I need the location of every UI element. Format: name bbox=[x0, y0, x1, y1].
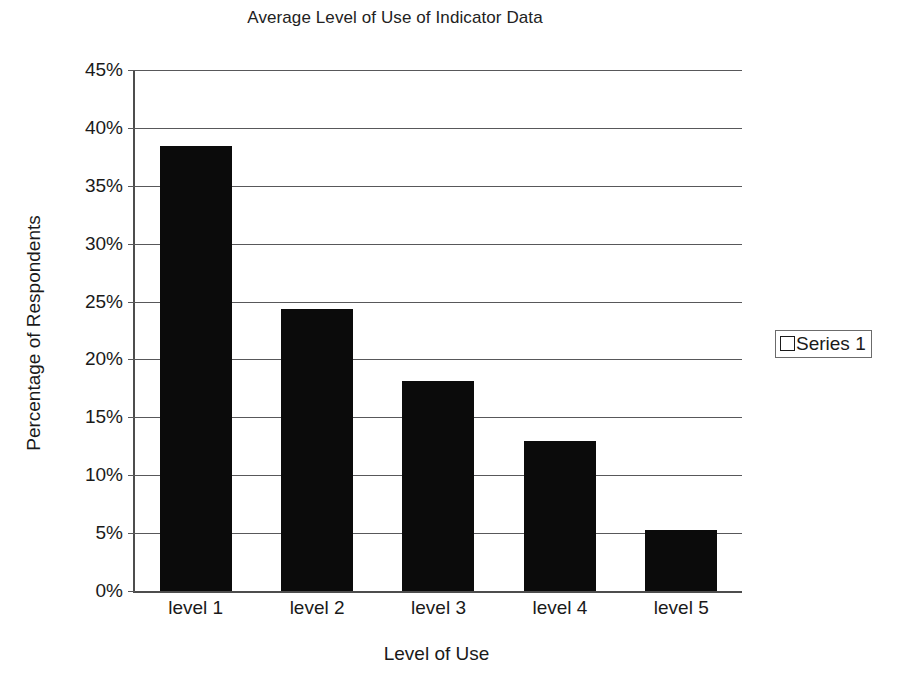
y-axis-tick bbox=[128, 70, 135, 71]
y-tick-label: 45% bbox=[85, 59, 123, 81]
bar-slot bbox=[256, 70, 377, 591]
y-tick-label: 5% bbox=[96, 522, 123, 544]
chart-title: Average Level of Use of Indicator Data bbox=[0, 8, 790, 28]
bar[interactable] bbox=[281, 309, 353, 591]
x-tick-label: level 4 bbox=[499, 597, 620, 619]
legend-swatch-icon bbox=[780, 336, 795, 351]
bar[interactable] bbox=[402, 381, 474, 591]
y-axis-tick bbox=[128, 475, 135, 476]
y-tick-label: 25% bbox=[85, 291, 123, 313]
y-axis-tick bbox=[128, 359, 135, 360]
y-tick-label: 35% bbox=[85, 175, 123, 197]
bar[interactable] bbox=[524, 441, 596, 592]
bar-slot bbox=[621, 70, 742, 591]
y-axis-tick bbox=[128, 591, 135, 592]
y-axis-title: Percentage of Respondents bbox=[23, 133, 45, 533]
y-axis-tick bbox=[128, 417, 135, 418]
y-tick-label: 30% bbox=[85, 233, 123, 255]
y-tick-label: 10% bbox=[85, 464, 123, 486]
y-axis-tick bbox=[128, 186, 135, 187]
x-axis-title: Level of Use bbox=[133, 643, 740, 665]
y-tick-label: 0% bbox=[96, 580, 123, 602]
y-tick-label: 20% bbox=[85, 348, 123, 370]
chart-container: Average Level of Use of Indicator Data P… bbox=[0, 0, 905, 684]
x-tick-label: level 2 bbox=[256, 597, 377, 619]
y-axis-tick bbox=[128, 533, 135, 534]
y-axis-tick bbox=[128, 244, 135, 245]
x-tick-label: level 3 bbox=[378, 597, 499, 619]
chart-legend[interactable]: Series 1 bbox=[775, 330, 872, 358]
y-axis-tick bbox=[128, 128, 135, 129]
bar[interactable] bbox=[160, 146, 232, 591]
x-tick-label: level 1 bbox=[135, 597, 256, 619]
bar-slot bbox=[135, 70, 256, 591]
bar-slot bbox=[499, 70, 620, 591]
y-tick-label: 15% bbox=[85, 406, 123, 428]
plot-area: 45%40%35%30%25%20%15%10%5%0% level 1leve… bbox=[133, 70, 742, 593]
bar[interactable] bbox=[645, 530, 717, 591]
legend-item-label: Series 1 bbox=[796, 334, 866, 353]
y-axis-tick bbox=[128, 302, 135, 303]
bars-layer bbox=[135, 70, 742, 591]
bar-slot bbox=[378, 70, 499, 591]
y-tick-label: 40% bbox=[85, 117, 123, 139]
x-tick-label: level 5 bbox=[621, 597, 742, 619]
